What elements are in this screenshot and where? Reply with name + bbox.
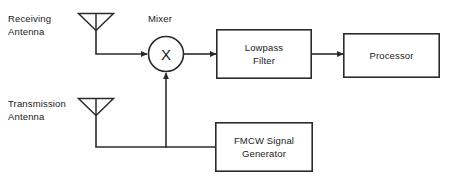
mixer-multiply-symbol: X	[148, 46, 184, 63]
fmcw-radar-block-diagram: Receiving Antenna Mixer Transmission Ant…	[0, 0, 456, 178]
node-lowpass-filter: Lowpass Filter	[216, 29, 312, 79]
label-lowpass-filter: Lowpass Filter	[216, 42, 312, 67]
receiving-antenna-icon	[79, 14, 114, 55]
label-mixer: Mixer	[148, 13, 198, 26]
node-processor: Processor	[343, 33, 440, 78]
transmission-antenna-icon	[79, 99, 114, 148]
node-fmcw-generator: FMCW Signal Generator	[215, 122, 313, 172]
node-mixer: X	[148, 36, 184, 72]
label-fmcw-generator: FMCW Signal Generator	[215, 135, 313, 160]
label-processor: Processor	[343, 49, 440, 62]
label-transmission-antenna: Transmission Antenna	[8, 98, 82, 123]
label-receiving-antenna: Receiving Antenna	[8, 13, 78, 38]
